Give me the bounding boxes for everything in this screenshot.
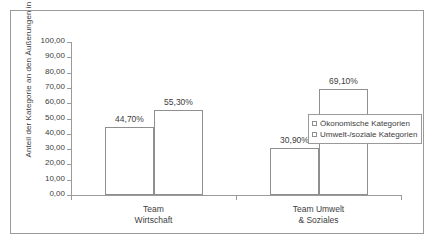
- y-tick-mark: [67, 164, 72, 165]
- x-tick-0: [71, 195, 72, 200]
- x-tick-1: [236, 195, 237, 200]
- legend-swatch-icon: [312, 121, 317, 126]
- y-tick-label: 30,00: [45, 143, 65, 152]
- y-tick-label: 20,00: [45, 158, 65, 167]
- bar-g0-s0[interactable]: [105, 127, 154, 195]
- category-label-line: Wirtschaft: [71, 215, 236, 226]
- y-tick-mark: [67, 57, 72, 58]
- y-tick-label: 40,00: [45, 128, 65, 137]
- y-tick-label: 50,00: [45, 113, 65, 122]
- bar-value-label: 55,30%: [146, 97, 211, 107]
- y-tick-label: 100,00: [41, 36, 65, 45]
- legend-item-0[interactable]: Ökonomische Kategorien: [312, 118, 417, 129]
- bar-value-label: 44,70%: [97, 114, 162, 124]
- y-tick-mark: [67, 103, 72, 104]
- y-tick-label: 70,00: [45, 82, 65, 91]
- legend-item-label: Umwelt-/soziale Kategorien: [320, 129, 417, 140]
- y-tick-mark: [67, 180, 72, 181]
- y-tick-label: 0,00: [49, 189, 65, 198]
- y-axis-title: Anteil der Kategorie an den Äußerungen i…: [24, 0, 33, 158]
- y-tick-label: 90,00: [45, 51, 65, 60]
- y-tick-label: 10,00: [45, 174, 65, 183]
- y-tick-mark: [67, 73, 72, 74]
- y-tick-mark: [67, 88, 72, 89]
- y-tick-label: 80,00: [45, 67, 65, 76]
- chart-frame: Anteil der Kategorie an den Äußerungen i…: [10, 10, 424, 234]
- y-tick-mark: [67, 119, 72, 120]
- chart-legend: Ökonomische KategorienUmwelt-/soziale Ka…: [308, 114, 422, 144]
- category-label-1: Team Umwelt& Soziales: [236, 204, 401, 226]
- x-tick-2: [401, 195, 402, 200]
- category-label-line: Team Umwelt: [236, 204, 401, 215]
- bar-g1-s0[interactable]: [270, 148, 319, 195]
- legend-item-label: Ökonomische Kategorien: [320, 118, 410, 129]
- bar-g0-s1[interactable]: [154, 110, 203, 195]
- legend-item-1[interactable]: Umwelt-/soziale Kategorien: [312, 129, 417, 140]
- y-tick-mark: [67, 42, 72, 43]
- category-label-line: & Soziales: [236, 215, 401, 226]
- bar-value-label: 69,10%: [311, 76, 376, 86]
- y-tick-mark: [67, 134, 72, 135]
- y-tick-mark: [67, 149, 72, 150]
- category-label-line: Team: [71, 204, 236, 215]
- category-label-0: TeamWirtschaft: [71, 204, 236, 226]
- y-tick-label: 60,00: [45, 97, 65, 106]
- legend-swatch-icon: [312, 132, 317, 137]
